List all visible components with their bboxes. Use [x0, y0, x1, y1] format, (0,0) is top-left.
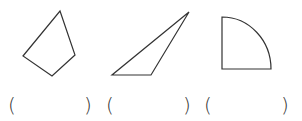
quadrilateral-figure	[23, 11, 75, 76]
answer-blank-3-close: )	[281, 93, 289, 117]
answer-blank-2-close: )	[183, 93, 191, 117]
triangle-figure	[112, 12, 189, 75]
quarter-circle-figure	[222, 17, 271, 69]
answer-blank-3-open: (	[204, 93, 212, 117]
answer-blank-1-close: )	[84, 93, 92, 117]
answer-blank-1-open: (	[8, 93, 16, 117]
answer-blank-2-open: (	[106, 93, 114, 117]
figures-canvas	[0, 0, 302, 121]
